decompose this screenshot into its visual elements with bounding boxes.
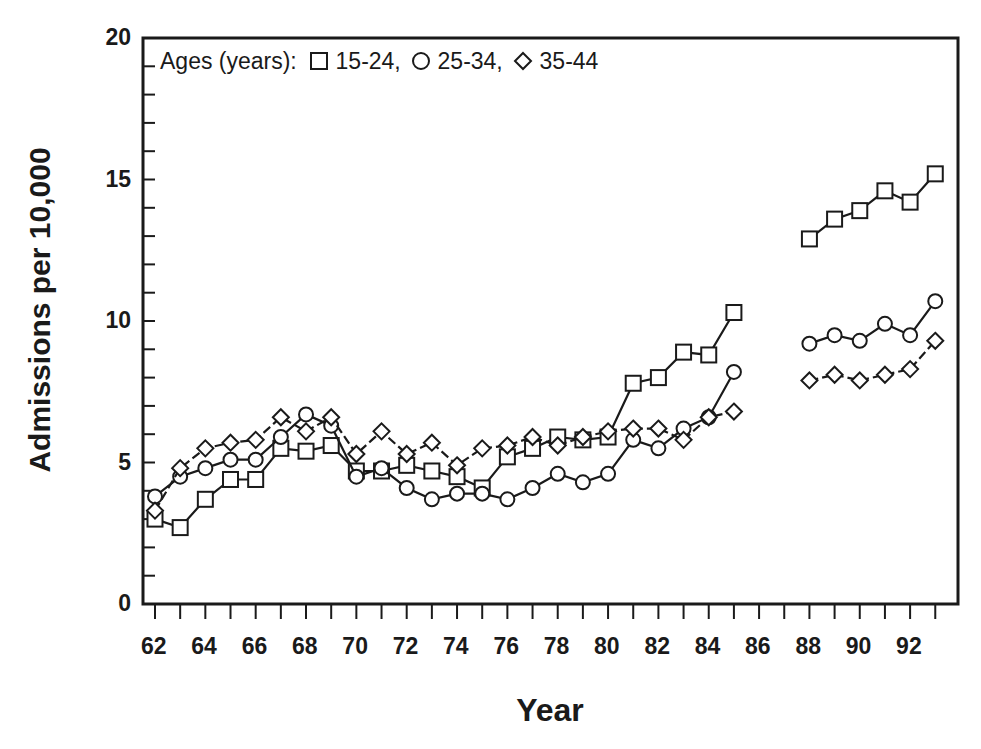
y-axis-label-text: Admissions per 10,000 <box>23 147 57 472</box>
chart-root: Admissions per 10,000 Year Ages (years):… <box>0 0 981 749</box>
circle-data-point <box>878 317 892 331</box>
diamond-data-point <box>650 421 666 437</box>
circle-data-point <box>500 492 514 506</box>
x-tick-label: 92 <box>896 633 922 660</box>
diamond-data-point <box>877 367 893 383</box>
square-data-point <box>198 492 213 507</box>
square-marker-icon <box>309 51 329 71</box>
square-data-point <box>877 183 892 198</box>
diamond-marker-icon <box>513 51 533 71</box>
circle-data-point <box>651 441 665 455</box>
y-axis-label: Admissions per 10,000 <box>10 90 70 530</box>
circle-data-point <box>349 470 363 484</box>
circle-data-point <box>853 334 867 348</box>
circle-data-point <box>903 328 917 342</box>
x-tick-label: 64 <box>191 633 217 660</box>
square-data-point <box>827 212 842 227</box>
circle-marker-icon <box>411 51 431 71</box>
x-tick-label: 68 <box>292 633 318 660</box>
diamond-data-point <box>223 435 239 451</box>
square-data-point <box>676 345 691 360</box>
x-tick-label: 80 <box>594 633 620 660</box>
diamond-data-point <box>852 372 868 388</box>
diamond-data-point <box>474 440 490 456</box>
square-data-point <box>701 347 716 362</box>
x-axis-label: Year <box>480 692 620 729</box>
diamond-data-point <box>726 404 742 420</box>
circle-data-point <box>400 481 414 495</box>
square-data-point <box>928 166 943 181</box>
circle-data-point <box>928 294 942 308</box>
circle-data-point <box>274 430 288 444</box>
circle-data-point <box>299 407 313 421</box>
square-data-point <box>903 195 918 210</box>
y-tick-label: 0 <box>118 590 131 617</box>
plot-frame <box>143 38 958 604</box>
circle-data-point <box>224 453 238 467</box>
circle-data-point <box>425 492 439 506</box>
square-data-point <box>651 370 666 385</box>
square-data-point <box>802 231 817 246</box>
x-tick-label: 76 <box>493 633 519 660</box>
series-25-34 <box>148 294 942 506</box>
circle-data-point <box>526 481 540 495</box>
circle-data-point <box>375 461 389 475</box>
diamond-data-point <box>248 432 264 448</box>
square-data-point <box>299 444 314 459</box>
circle-data-point <box>475 487 489 501</box>
x-tick-label: 90 <box>846 633 872 660</box>
square-data-point <box>626 376 641 391</box>
x-tick-label: 62 <box>141 633 167 660</box>
x-tick-label: 78 <box>544 633 570 660</box>
square-data-point <box>852 203 867 218</box>
diamond-data-point <box>801 372 817 388</box>
diamond-data-point <box>625 421 641 437</box>
circle-data-point <box>249 453 263 467</box>
square-data-point <box>324 438 339 453</box>
square-data-point <box>424 463 439 478</box>
diamond-data-point <box>827 367 843 383</box>
x-tick-label: 74 <box>443 633 469 660</box>
square-data-point <box>223 472 238 487</box>
square-data-point <box>173 520 188 535</box>
y-tick-label: 10 <box>105 307 131 334</box>
series-35-44 <box>147 333 943 519</box>
legend-entry-25-34: 25-34, <box>407 48 509 74</box>
circle-data-point <box>802 337 816 351</box>
square-data-point <box>726 305 741 320</box>
circle-data-point <box>576 475 590 489</box>
circle-data-point <box>828 328 842 342</box>
x-tick-label: 86 <box>745 633 771 660</box>
legend-prefix: Ages (years): <box>160 48 297 74</box>
y-tick-label: 5 <box>118 449 131 476</box>
x-tick-label: 72 <box>393 633 419 660</box>
diamond-data-point <box>298 423 314 439</box>
circle-data-point <box>727 365 741 379</box>
circle-data-point <box>601 467 615 481</box>
square-data-point <box>248 472 263 487</box>
x-tick-label: 82 <box>644 633 670 660</box>
circle-data-point <box>198 461 212 475</box>
y-tick-label: 20 <box>105 24 131 51</box>
circle-data-point <box>450 487 464 501</box>
legend: Ages (years): 15-24, 25-34, 35-44 <box>160 48 598 75</box>
legend-entry-35-44: 35-44 <box>509 48 598 74</box>
x-tick-label: 84 <box>695 633 721 660</box>
x-tick-label: 88 <box>795 633 821 660</box>
x-tick-label: 66 <box>242 633 268 660</box>
y-tick-label: 15 <box>105 166 131 193</box>
circle-data-point <box>551 467 565 481</box>
legend-entry-15-24: 15-24, <box>303 48 407 74</box>
x-tick-label: 70 <box>342 633 368 660</box>
